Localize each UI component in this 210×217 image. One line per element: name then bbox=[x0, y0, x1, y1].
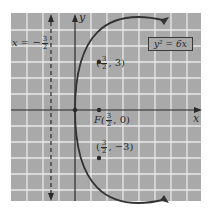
directrix-label: x = −32 bbox=[12, 36, 49, 51]
fraction-denominator: 2 bbox=[102, 64, 106, 71]
paren-open: ( bbox=[96, 57, 100, 68]
directrix-prefix: x = − bbox=[12, 37, 41, 48]
fraction-denominator: 2 bbox=[102, 148, 106, 155]
y-axis-label: y bbox=[79, 12, 85, 23]
upper-point-label: (32, 3) bbox=[96, 56, 125, 71]
equation-box: y² = 6x bbox=[148, 37, 193, 51]
focus-label: F(32, 0) bbox=[94, 113, 130, 128]
vertex-point bbox=[73, 108, 77, 112]
focus-rest: , 0) bbox=[113, 114, 130, 125]
upper-point-rest: , 3) bbox=[108, 57, 125, 68]
directrix-fraction: 32 bbox=[42, 36, 48, 51]
fraction-denominator: 2 bbox=[107, 121, 111, 128]
lower-latus-point bbox=[97, 156, 101, 160]
parabola-chart bbox=[0, 0, 210, 217]
focus-prefix: F( bbox=[94, 114, 105, 125]
lower-point-rest: , −3) bbox=[108, 141, 133, 152]
fraction-denominator: 2 bbox=[43, 44, 47, 51]
focus-point bbox=[97, 108, 101, 112]
lower-point-fraction: 32 bbox=[101, 140, 107, 155]
x-axis-label: x bbox=[193, 113, 199, 124]
lower-point-label: (32, −3) bbox=[96, 140, 133, 155]
paren-open: ( bbox=[96, 141, 100, 152]
focus-fraction: 32 bbox=[106, 113, 112, 128]
upper-point-fraction: 32 bbox=[101, 56, 107, 71]
